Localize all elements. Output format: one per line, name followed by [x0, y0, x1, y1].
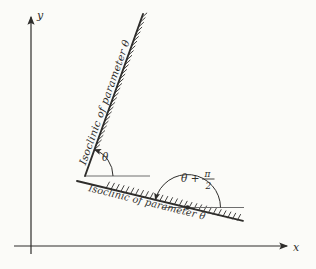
pi-numerator: π [204, 169, 212, 179]
x-axis-label: x [293, 241, 300, 254]
y-axis-label: y [36, 9, 44, 22]
shallow-isoclinic-label: Isoclinic of parameter θ [87, 182, 207, 222]
steep-isoclinic-label: Isoclinic of parameter θ [77, 38, 132, 167]
denominator-2: 2 [205, 181, 212, 191]
theta-plus-text: θ + [181, 172, 199, 184]
theta-plus-half-pi-label: θ + π 2 [181, 169, 215, 191]
steep-isoclinic-line [85, 14, 143, 176]
theta-label: θ [102, 151, 109, 163]
figure-canvas: y x θ θ + π 2 Isoclinic of parameter θ I… [0, 0, 316, 269]
isoclinic-diagram: y x θ θ + π 2 Isoclinic of parameter θ I… [0, 0, 316, 269]
